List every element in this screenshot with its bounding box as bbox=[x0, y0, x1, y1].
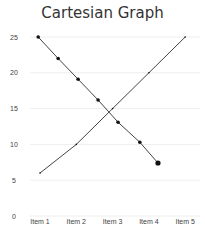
data-point-marker bbox=[184, 36, 186, 38]
data-point-marker bbox=[36, 35, 40, 39]
cartesian-chart: Cartesian Graph 0510152025Item 1Item 2It… bbox=[0, 0, 205, 237]
data-point-marker bbox=[148, 72, 150, 74]
x-tick-label: Item 3 bbox=[103, 218, 123, 225]
data-point-marker bbox=[112, 108, 114, 110]
plot-area: 0510152025Item 1Item 2Item 3Item 4Item 5 bbox=[0, 0, 205, 237]
data-point-marker bbox=[116, 120, 120, 124]
data-point-marker bbox=[56, 57, 60, 61]
x-tick-label: Item 4 bbox=[139, 218, 159, 225]
x-tick-label: Item 5 bbox=[175, 218, 195, 225]
y-tick-label: 5 bbox=[12, 177, 16, 184]
series-line bbox=[40, 37, 185, 173]
y-tick-label: 15 bbox=[10, 105, 18, 112]
x-tick-label: Item 2 bbox=[67, 218, 87, 225]
y-tick-label: 20 bbox=[10, 69, 18, 76]
data-point-marker bbox=[138, 140, 142, 144]
y-tick-label: 25 bbox=[10, 34, 18, 41]
data-point-marker bbox=[76, 144, 78, 146]
data-point-marker bbox=[76, 77, 80, 81]
x-tick-label: Item 1 bbox=[30, 218, 50, 225]
y-tick-label: 0 bbox=[12, 213, 16, 220]
data-point-marker bbox=[39, 172, 41, 174]
data-point-marker bbox=[155, 160, 160, 165]
y-tick-label: 10 bbox=[10, 141, 18, 148]
data-point-marker bbox=[96, 98, 100, 102]
